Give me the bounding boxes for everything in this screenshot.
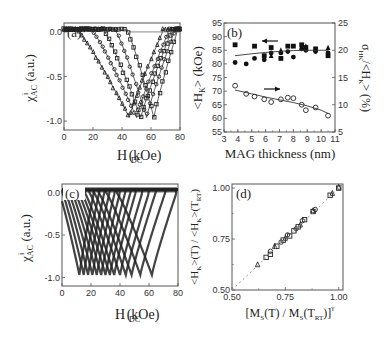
- right-y-tick-label: 5: [338, 127, 343, 137]
- right-y-tick-label: 25: [338, 18, 348, 28]
- x-tick-label: 80: [175, 132, 185, 142]
- panel-label-c: (c): [65, 186, 79, 201]
- x-tick-label: 6: [263, 134, 268, 144]
- marker-circle: [326, 51, 331, 56]
- x-tick-label: 0.75: [277, 292, 295, 302]
- x-axis-title: H: [117, 148, 127, 163]
- right-y-tick-label: 20: [338, 45, 348, 55]
- y-tick-label: 85: [212, 45, 222, 55]
- x-axis-title: [MS(T) / MS(TRT)]γ: [246, 304, 335, 322]
- x-tick-label: 0: [59, 288, 64, 298]
- y-tick-label: -0.5: [46, 72, 62, 82]
- panel-d: 0.500.751.000.500.751.00(d)[MS(T) / MS(T…: [188, 183, 347, 322]
- y-tick-label: 55: [212, 127, 222, 137]
- panel-label-b: (b): [227, 25, 242, 40]
- y-tick-label: -1.0: [44, 273, 60, 283]
- y-tick-label: 70: [212, 86, 222, 96]
- x-tick-label: 3: [221, 134, 226, 144]
- x-axis-unit: (kOe): [129, 148, 162, 164]
- x-tick-label: 40: [115, 288, 125, 298]
- right-y-axis-title: σHK/<HK> (%): [357, 44, 373, 112]
- marker-circle: [285, 49, 290, 54]
- y-tick-label: 0.0: [47, 188, 60, 198]
- y-tick-label: 0.75: [212, 234, 230, 244]
- x-tick-label: 7: [277, 134, 282, 144]
- right-y-tick-label: 10: [338, 100, 348, 110]
- x-tick-label: 60: [146, 132, 156, 142]
- marker-square: [262, 53, 267, 58]
- y-axis-title: χACi (a.u.): [21, 54, 39, 103]
- panel-b: 34567891011556065707580859095510152025(b…: [190, 18, 373, 161]
- marker-open-circle: [278, 97, 283, 102]
- x-tick-label: 60: [144, 288, 154, 298]
- marker-triangle: [278, 47, 283, 52]
- y-tick-label: 90: [212, 32, 222, 42]
- marker-open-circle: [303, 108, 308, 113]
- panel-label-d: (d): [236, 186, 251, 201]
- y-tick-label: 1.00: [212, 183, 230, 193]
- x-tick-label: 20: [88, 132, 98, 142]
- marker-circle: [291, 55, 296, 60]
- marker-triangle: [326, 45, 331, 50]
- panel-a: 0204060800.0-0.5-1.0(a)HDC(kOe)χACi (a.u…: [21, 23, 185, 165]
- x-tick-label: 0: [61, 132, 66, 142]
- marker-square: [291, 44, 296, 49]
- x-axis-title: H: [115, 307, 125, 322]
- marker-open-circle: [326, 113, 331, 118]
- panel-c: 0204060800.0-0.5-1.0(c)HDC(kOe)χACi (a.u…: [17, 184, 183, 324]
- panel-label-a: (a): [67, 25, 81, 40]
- marker-circle: [262, 57, 267, 62]
- y-tick-label: 0.0: [49, 27, 62, 37]
- marker-open-circle: [285, 95, 290, 100]
- x-tick-label: 9: [305, 134, 310, 144]
- x-tick-label: 40: [117, 132, 127, 142]
- x-tick-label: 5: [249, 134, 254, 144]
- right-y-tick-label: 15: [338, 73, 348, 83]
- y-axis-title: χACi (a.u.): [17, 214, 35, 263]
- y-tick-label: -0.5: [44, 230, 60, 240]
- fit-curve: [64, 29, 180, 117]
- marker-square: [233, 42, 238, 47]
- left-y-axis-title: <HK> (kOe): [190, 46, 207, 109]
- marker-open-triangle: [337, 184, 341, 189]
- marker-open-circle: [233, 83, 238, 88]
- marker-square: [278, 56, 283, 61]
- marker-open-circle: [291, 96, 296, 101]
- y-tick-label: 65: [212, 100, 222, 110]
- marker-circle: [233, 60, 238, 65]
- y-tick-label: 75: [212, 73, 222, 83]
- marker-open-triangle: [111, 86, 114, 90]
- x-tick-label: 1.00: [330, 292, 348, 302]
- y-tick-label: 60: [212, 113, 222, 123]
- marker-open-circle: [269, 100, 274, 105]
- marker-circle: [244, 61, 249, 66]
- y-tick-label: 80: [212, 59, 222, 69]
- y-tick-label: 0.50: [212, 285, 230, 295]
- marker-square: [269, 45, 274, 50]
- x-axis-unit: (kOe): [127, 307, 160, 323]
- y-tick-label: -1.0: [46, 116, 62, 126]
- x-tick-label: 80: [173, 288, 183, 298]
- y-tick-label: 95: [212, 18, 222, 28]
- y-axis-title: <HK>(T) / <HK>(TRT): [188, 189, 203, 285]
- marker-circle: [252, 56, 257, 61]
- x-tick-label: 20: [86, 288, 96, 298]
- marker-square: [252, 44, 257, 49]
- figure-canvas: 0204060800.0-0.5-1.0(a)HDC(kOe)χACi (a.u…: [0, 0, 384, 341]
- x-tick-label: 10: [316, 134, 326, 144]
- marker-square: [285, 44, 290, 49]
- x-axis-title: MAG thickness (nm): [225, 146, 336, 161]
- x-tick-label: 4: [235, 134, 240, 144]
- x-tick-label: 8: [291, 134, 296, 144]
